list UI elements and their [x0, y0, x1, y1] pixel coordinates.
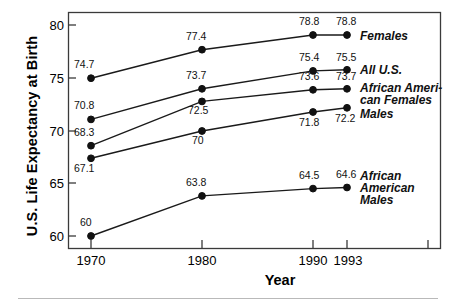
value-label-aa-females-1990: 73.6	[299, 70, 319, 82]
marker-females-1970	[88, 75, 95, 82]
marker-males-1970	[88, 155, 95, 162]
marker-aa-males-1980	[199, 193, 206, 200]
marker-females-1980	[199, 46, 206, 53]
plot-frame	[69, 13, 441, 249]
series-label-females: Females	[360, 30, 408, 43]
series-label-african-american-males-line3: Males	[360, 194, 393, 207]
marker-all-us-1980	[199, 85, 206, 92]
marker-aa-females-1970	[88, 142, 95, 149]
value-label-females-1993: 78.8	[336, 15, 356, 27]
value-label-all-us-1970: 70.8	[74, 99, 94, 111]
value-label-males-1993: 72.2	[335, 112, 355, 124]
series-label-african-american-females-line2: can Females	[360, 94, 432, 107]
series-label-all-us: All U.S.	[360, 64, 402, 77]
marker-aa-males-1993	[344, 184, 351, 191]
value-label-all-us-1990: 75.4	[299, 51, 319, 63]
value-label-females-1990: 78.8	[299, 15, 319, 27]
value-label-females-1970: 74.7	[74, 58, 94, 70]
value-label-females-1980: 77.4	[186, 30, 206, 42]
life-expectancy-line-chart: U.S. Life Expectancy at Birth 80 75 70 6…	[0, 0, 456, 308]
marker-aa-males-1990	[310, 185, 317, 192]
value-label-all-us-1993: 75.5	[336, 51, 356, 63]
value-label-males-1980: 70	[192, 134, 204, 146]
value-label-aa-males-1970: 60	[80, 216, 92, 228]
series-line-african-american-males	[91, 188, 347, 237]
value-label-aa-males-1990: 64.5	[299, 169, 319, 181]
marker-all-us-1970	[88, 116, 95, 123]
value-label-males-1990: 71.8	[299, 116, 319, 128]
value-label-aa-females-1970: 68.3	[74, 126, 94, 138]
marker-aa-females-1993	[344, 85, 351, 92]
value-label-aa-males-1980: 63.8	[186, 176, 206, 188]
footer-rule	[18, 298, 438, 299]
plot-svg	[0, 0, 456, 308]
marker-males-1990	[310, 109, 317, 116]
series-label-males: Males	[360, 108, 393, 121]
marker-females-1990	[310, 32, 317, 39]
marker-females-1993	[344, 32, 351, 39]
value-label-aa-males-1993: 64.6	[336, 168, 356, 180]
value-label-all-us-1980: 73.7	[186, 69, 206, 81]
marker-aa-males-1970	[88, 233, 95, 240]
value-label-males-1970: 67.1	[74, 162, 94, 174]
marker-males-1993	[344, 104, 351, 111]
value-label-aa-females-1993: 73.7	[336, 70, 356, 82]
value-label-aa-females-1980: 72.5	[188, 104, 208, 116]
marker-aa-females-1990	[310, 86, 317, 93]
